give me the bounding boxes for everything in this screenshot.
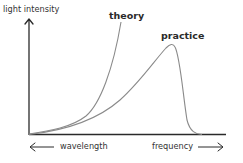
theory-curve bbox=[29, 22, 121, 134]
blackbody-diagram: light intensity theory practice waveleng… bbox=[0, 0, 243, 163]
wavelength-label: wavelength bbox=[60, 142, 108, 150]
theory-label: theory bbox=[109, 11, 144, 21]
frequency-label: frequency bbox=[152, 142, 193, 150]
practice-curve bbox=[29, 44, 202, 134]
practice-label: practice bbox=[161, 31, 204, 41]
diagram-canvas bbox=[0, 0, 243, 163]
y-axis-label: light intensity bbox=[3, 5, 59, 13]
